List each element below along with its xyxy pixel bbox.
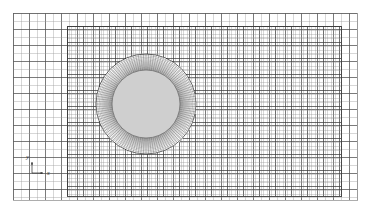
cylinder-surface bbox=[112, 70, 180, 138]
mesh-canvas: yx bbox=[0, 0, 369, 212]
cylinder-layer bbox=[112, 70, 180, 138]
cfd-mesh-figure: yx bbox=[0, 0, 369, 212]
axis-label-x: x bbox=[46, 170, 50, 176]
axis-label-y: y bbox=[25, 154, 29, 160]
